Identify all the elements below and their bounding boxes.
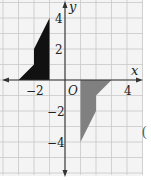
y-tick-label: 4 — [55, 12, 63, 26]
coordinate-plane: xyO−2442−2−4 — [0, 0, 151, 180]
x-tick-label: −2 — [26, 84, 44, 98]
coordinate-plane-figure: xyO−2442−2−4 ( — [0, 0, 151, 180]
y-tick-label: −4 — [47, 136, 65, 150]
y-tick-label: −2 — [47, 105, 65, 119]
x-tick-label: 4 — [124, 84, 132, 98]
y-tick-label: 2 — [55, 43, 63, 57]
y-axis-label: y — [68, 0, 77, 14]
stray-mark: ( — [142, 124, 147, 140]
origin-label: O — [68, 84, 78, 98]
x-axis-label: x — [131, 63, 139, 78]
